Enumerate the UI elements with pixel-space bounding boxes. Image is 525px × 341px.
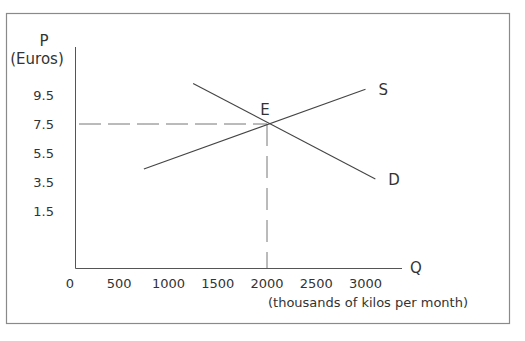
y-tick-label: 3.5 <box>33 175 54 190</box>
y-tick-label: 5.5 <box>33 146 54 161</box>
demand-label: D <box>388 171 400 189</box>
x-tick-label: 0 <box>66 276 74 291</box>
supply-demand-chart: 0500100015002000250030001.53.55.57.59.5S… <box>0 0 525 341</box>
supply-label: S <box>379 81 389 99</box>
y-tick-label: 7.5 <box>33 117 54 132</box>
equilibrium-label: E <box>260 101 269 119</box>
y-tick-label: 9.5 <box>33 88 54 103</box>
x-tick-label: 1500 <box>201 276 234 291</box>
x-axis-label: Q <box>410 259 422 277</box>
y-axis-unit: (Euros) <box>10 50 64 68</box>
x-axis-unit: (thousands of kilos per month) <box>268 295 468 310</box>
x-tick-label: 2500 <box>300 276 333 291</box>
y-axis-label: P <box>39 32 48 50</box>
x-tick-label: 1000 <box>152 276 185 291</box>
demand-curve <box>193 83 375 179</box>
x-tick-label: 2000 <box>250 276 283 291</box>
x-tick-label: 3000 <box>349 276 382 291</box>
x-tick-label: 500 <box>107 276 132 291</box>
y-tick-label: 1.5 <box>33 204 54 219</box>
